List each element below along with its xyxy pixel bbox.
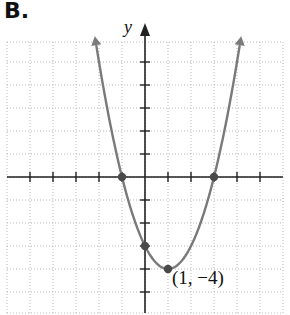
- parabola-plot: y (1, −4): [0, 0, 290, 315]
- vertex-label: (1, −4): [172, 267, 224, 289]
- y-axis-label: y: [122, 17, 132, 37]
